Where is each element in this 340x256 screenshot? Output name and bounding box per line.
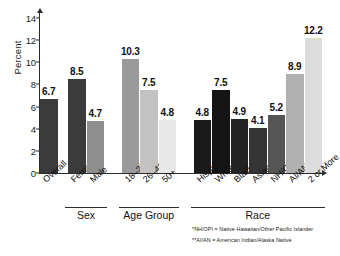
group-label: Sex [65,209,107,221]
bar-value-label: 4.8 [154,107,182,118]
bar-value-label: 6.7 [35,86,63,97]
y-tick-mark [36,40,39,41]
y-tick-mark [36,18,39,19]
bar[interactable] [159,120,177,173]
bar[interactable] [305,38,323,173]
y-tick-mark [36,106,39,107]
y-tick-mark [36,62,39,63]
bar-value-label: 4.7 [82,108,110,119]
y-tick-mark [36,128,39,129]
footnote-nhopi: *NH/OPI = Native Hawaiian/Other Pacific … [192,226,313,232]
group-rule [191,207,326,208]
bar-value-label: 7.5 [207,77,235,88]
bar[interactable] [286,74,304,173]
group-label: Race [191,209,326,221]
y-tick-mark [36,173,39,174]
bar[interactable] [140,90,158,173]
y-tick-mark [36,150,39,151]
bar[interactable] [68,79,86,173]
y-tick-mark [36,84,39,85]
bar-value-label: 12.2 [300,25,328,36]
bar-value-label: 8.5 [63,66,91,77]
bar[interactable] [40,99,58,173]
bar[interactable] [212,90,230,173]
bar-value-label: 10.3 [117,46,145,57]
group-rule [65,207,107,208]
bar-value-label: 7.5 [135,77,163,88]
group-rule [119,207,180,208]
group-label: Age Group [119,209,180,221]
footnote-aian: **AI/AN = American Indian/Alaska Native [192,237,291,243]
